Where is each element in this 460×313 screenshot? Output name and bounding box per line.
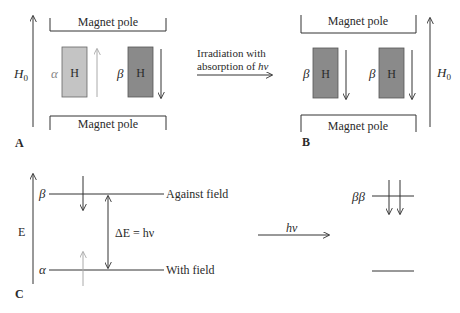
- upper-level-spin: β: [38, 186, 46, 201]
- transition-label: hν: [286, 221, 298, 235]
- bottom-pole-label: Magnet pole: [328, 119, 388, 133]
- panel-label-a: A: [15, 136, 24, 150]
- top-pole-label: Magnet pole: [328, 14, 388, 28]
- irradiation-line1: Irradiation with: [197, 47, 266, 59]
- lower-level-spin: α: [39, 262, 47, 277]
- proton-label: H: [321, 67, 330, 81]
- beta-spin-label: β: [116, 66, 124, 81]
- beta-spin-label: β: [368, 66, 376, 81]
- beta-spin-label: β: [302, 66, 310, 81]
- field-label: H0: [13, 66, 28, 83]
- nmr-spin-diagram: H0 Magnet pole Magnet pole α H β H A Irr…: [0, 0, 460, 313]
- proton-label: H: [136, 66, 145, 80]
- panel-label-c: C: [15, 287, 24, 301]
- irradiation-line2: absorption of hν: [197, 60, 269, 72]
- upper-level-label: Against field: [166, 187, 228, 201]
- panel-c: E β Against field α With field ΔE = hν C…: [15, 174, 414, 301]
- lower-level-label: With field: [166, 263, 215, 277]
- bottom-pole-label: Magnet pole: [78, 117, 138, 131]
- final-upper-spin: ββ: [351, 189, 365, 204]
- field-label: H0: [436, 65, 451, 82]
- energy-axis-label: E: [18, 225, 25, 239]
- panel-label-b: B: [302, 135, 310, 149]
- top-pole-label: Magnet pole: [78, 15, 138, 29]
- energy-gap-label: ΔE = hν: [115, 226, 155, 240]
- proton-label: H: [387, 67, 396, 81]
- irradiation-transition: Irradiation with absorption of hν: [197, 47, 272, 75]
- panel-a: H0 Magnet pole Magnet pole α H β H A: [13, 15, 166, 150]
- alpha-spin-label: α: [51, 66, 59, 81]
- panel-b: Magnet pole Magnet pole β H β H H0 B: [301, 14, 451, 149]
- proton-label: H: [70, 66, 79, 80]
